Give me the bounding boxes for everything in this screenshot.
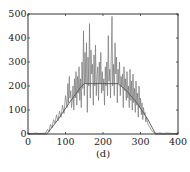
x-tick-label: 400 bbox=[169, 136, 187, 147]
plot-area bbox=[28, 16, 178, 134]
noisy-signal-line bbox=[28, 16, 178, 133]
x-tick-label: 100 bbox=[56, 136, 74, 147]
envelope-line bbox=[28, 84, 178, 134]
chart-caption: (d) bbox=[96, 148, 110, 159]
y-axis: 0100200300400500 bbox=[8, 8, 178, 139]
y-tick-label: 200 bbox=[8, 80, 26, 91]
x-tick-label: 200 bbox=[94, 136, 112, 147]
y-tick-label: 300 bbox=[8, 56, 26, 67]
x-tick-label: 300 bbox=[131, 136, 149, 147]
y-tick-label: 500 bbox=[8, 8, 26, 19]
line-chart: 0100200300400 0100200300400500 (d) bbox=[0, 0, 190, 172]
y-tick-label: 100 bbox=[8, 104, 26, 115]
axes-frame bbox=[28, 14, 178, 134]
y-tick-label: 400 bbox=[8, 32, 26, 43]
y-tick-label: 0 bbox=[20, 128, 26, 139]
